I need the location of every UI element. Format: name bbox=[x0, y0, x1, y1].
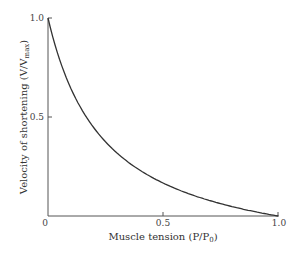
force-velocity-curve bbox=[48, 18, 278, 216]
x-tick-label-0: 0 bbox=[42, 218, 48, 228]
x-axis-label: Muscle tension (P/P0) bbox=[108, 231, 217, 244]
x-tick-label-1: 1.0 bbox=[272, 218, 287, 228]
force-velocity-chart: 1.0 0.5 0 0.5 1.0 Muscle tension (P/P0) … bbox=[0, 0, 301, 255]
x-tick-label-05: 0.5 bbox=[156, 218, 171, 228]
y-tick-label-1: 1.0 bbox=[30, 13, 45, 23]
y-tick-label-05: 0.5 bbox=[30, 112, 45, 122]
